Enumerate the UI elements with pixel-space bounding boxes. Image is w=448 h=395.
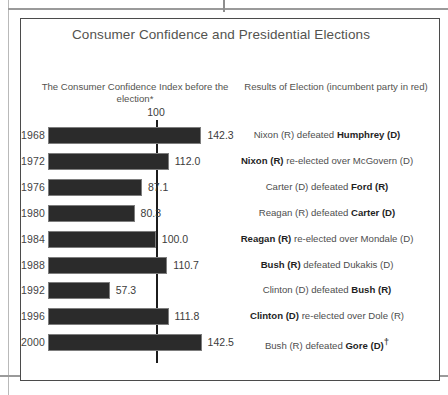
election-result-text: Reagan (R) re-elected over Mondale (D): [219, 233, 435, 244]
election-result-text: Bush (R) defeated Gore (D)†: [219, 336, 435, 351]
incumbent-party-name: Nixon (R): [241, 155, 284, 166]
value-bar: [48, 282, 110, 299]
incumbent-party-name: Ford (R): [351, 181, 388, 192]
incumbent-party-name: Humphrey (D): [337, 129, 400, 140]
election-result-text: Reagan (R) defeated Carter (D): [219, 207, 435, 218]
chart-row: 198080.3Reagan (R) defeated Carter (D): [21, 203, 441, 229]
value-label: 57.3: [116, 284, 136, 296]
value-bar: [48, 257, 167, 274]
chart-row: 1984100.0Reagan (R) re-elected over Mond…: [21, 229, 441, 255]
value-label: 100.0: [162, 233, 188, 245]
row-year-label: 1992: [21, 284, 45, 296]
value-bar: [48, 231, 156, 248]
incumbent-party-name: Gore (D): [345, 340, 383, 351]
row-year-label: 1972: [21, 155, 45, 167]
row-year-label: 1988: [21, 259, 45, 271]
value-label: 110.7: [173, 259, 199, 271]
row-year-label: 1996: [21, 310, 45, 322]
chart-row: 1968142.3Nixon (R) defeated Humphrey (D): [21, 125, 441, 151]
value-bar: [48, 334, 202, 351]
election-result-text: Clinton (D) defeated Bush (R): [219, 284, 435, 295]
election-result-text: Nixon (R) defeated Humphrey (D): [219, 129, 435, 140]
value-bar: [48, 205, 135, 222]
incumbent-party-name: Reagan (R): [241, 233, 292, 244]
value-bar: [48, 153, 169, 170]
incumbent-party-name: Carter (D): [351, 207, 395, 218]
row-year-label: 1984: [21, 233, 45, 245]
footnote-dagger-icon: †: [384, 336, 389, 347]
row-year-label: 1980: [21, 207, 45, 219]
chart-row: 199257.3Clinton (D) defeated Bush (R): [21, 280, 441, 306]
election-result-text: Clinton (D) re-elected over Dole (R): [219, 310, 435, 321]
page-gutter-mark: [223, 0, 225, 12]
incumbent-party-name: Clinton (D): [250, 310, 299, 321]
page-left-edge: [8, 0, 9, 395]
value-bar: [48, 179, 142, 196]
row-year-label: 1968: [21, 129, 45, 141]
value-label: 80.3: [141, 207, 161, 219]
exhibit-frame: Consumer Confidence and Presidential Ele…: [20, 18, 440, 381]
value-label: 111.8: [175, 310, 200, 322]
value-label: 87.1: [148, 181, 168, 193]
row-year-label: 1976: [21, 181, 45, 193]
bar-chart-plot-area: 100 1968142.3Nixon (R) defeated Humphrey…: [21, 19, 441, 382]
election-result-text: Bush (R) defeated Dukakis (D): [219, 259, 435, 270]
row-year-label: 2000: [21, 336, 45, 348]
chart-row: 1988110.7Bush (R) defeated Dukakis (D): [21, 255, 441, 281]
page-top-rule: [8, 8, 448, 10]
election-result-text: Nixon (R) re-elected over McGovern (D): [219, 155, 435, 166]
chart-row: 197687.1Carter (D) defeated Ford (R): [21, 177, 441, 203]
value-bar: [48, 127, 201, 144]
incumbent-party-name: Bush (R): [261, 259, 301, 270]
value-bar: [48, 308, 169, 325]
chart-row: 1972112.0Nixon (R) re-elected over McGov…: [21, 151, 441, 177]
election-result-text: Carter (D) defeated Ford (R): [219, 181, 435, 192]
chart-row: 1996111.8Clinton (D) re-elected over Dol…: [21, 306, 441, 332]
chart-row: 2000142.5Bush (R) defeated Gore (D)†: [21, 332, 441, 358]
reference-axis-label: 100: [140, 106, 172, 118]
value-label: 112.0: [175, 155, 201, 167]
incumbent-party-name: Bush (R): [351, 284, 391, 295]
